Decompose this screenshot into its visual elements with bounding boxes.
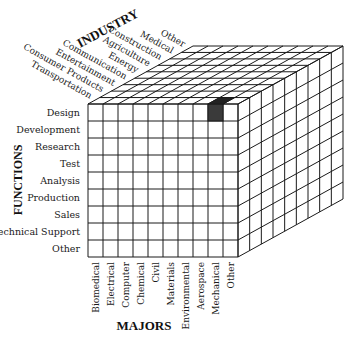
major-label: Aerospace — [196, 262, 206, 311]
major-label: Materials — [166, 262, 176, 306]
function-label: Technical Support — [0, 226, 80, 237]
function-label: Production — [27, 192, 80, 203]
cube-grid — [88, 46, 343, 257]
function-label: Development — [16, 124, 80, 135]
majors-axis-title: MAJORS — [117, 318, 172, 333]
major-label: Environmental — [181, 262, 191, 329]
major-label: Chemical — [136, 262, 146, 305]
cube-diagram: INDUSTRY FUNCTIONS MAJORS DesignDevelopm… — [0, 0, 351, 344]
highlight-front — [208, 104, 223, 121]
major-label: Biomedical — [91, 262, 101, 313]
functions-axis-title: FUNCTIONS — [11, 144, 25, 215]
major-label: Computer — [121, 261, 131, 307]
function-label: Test — [60, 158, 80, 169]
major-label: Electrical — [106, 262, 116, 306]
function-label: Sales — [54, 209, 80, 220]
function-label: Other — [52, 243, 80, 254]
major-label: Mechanical — [211, 262, 221, 315]
function-label: Analysis — [39, 175, 80, 186]
cube-svg: INDUSTRY FUNCTIONS MAJORS DesignDevelopm… — [0, 0, 351, 344]
function-label: Research — [35, 141, 80, 152]
function-label: Design — [47, 107, 80, 118]
major-label: Other — [226, 261, 236, 288]
major-label: Civil — [151, 262, 161, 283]
